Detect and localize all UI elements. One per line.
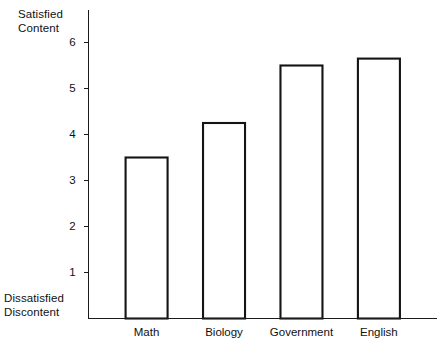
- y-tick-label: 4: [69, 128, 76, 140]
- y-tick-label: 1: [69, 266, 75, 278]
- bar-chart: Satisfied Content Dissatisfied Disconten…: [0, 0, 448, 343]
- bar: [358, 59, 400, 319]
- y-tick-label: 6: [69, 36, 75, 48]
- bar: [203, 123, 245, 319]
- y-tick-label: 7: [69, 0, 75, 2]
- x-category-label: Math: [134, 326, 160, 338]
- bar-series: [126, 59, 400, 319]
- x-category-label: Biology: [205, 326, 243, 338]
- x-axis-category-labels: MathBiologyGovernmentEnglish: [134, 326, 398, 338]
- y-tick-label: 3: [69, 174, 75, 186]
- y-axis-ticks: 1234567: [69, 0, 88, 278]
- x-category-label: Government: [270, 326, 334, 338]
- plot-area: 1234567 MathBiologyGovernmentEnglish: [0, 0, 448, 343]
- y-tick-label: 2: [69, 220, 75, 232]
- y-tick-label: 5: [69, 82, 75, 94]
- x-category-label: English: [360, 326, 398, 338]
- bar: [126, 158, 168, 319]
- bar: [280, 66, 322, 319]
